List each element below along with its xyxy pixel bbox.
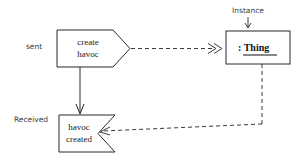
send-signal-label-line1: create: [77, 37, 98, 47]
edge-object-to-receive-horizontal: [103, 124, 262, 131]
receive-signal-label-line2: created: [66, 134, 92, 144]
object-box-label: : Thing: [238, 42, 269, 53]
send-signal-label-line2: havoc: [77, 49, 99, 59]
annotation-received: Received: [14, 115, 48, 124]
diagram-canvas: create havoc havoc created : Thing sent …: [0, 0, 294, 157]
annotation-instance: Instance: [232, 6, 264, 15]
annotation-sent: sent: [26, 42, 42, 51]
uml-signal-diagram: create havoc havoc created : Thing sent …: [0, 0, 294, 157]
receive-signal-label-line1: havoc: [68, 122, 90, 132]
